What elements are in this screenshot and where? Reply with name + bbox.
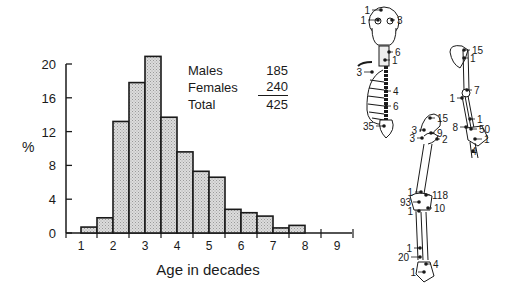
legend-label-total: Total <box>188 96 215 113</box>
histogram-bar <box>129 83 145 233</box>
lesion-count-label: 35 <box>363 121 375 132</box>
histogram-bar <box>113 121 129 233</box>
x-tick-label: 1 <box>78 239 85 253</box>
histogram-bar <box>289 225 305 233</box>
x-tick-label: 4 <box>174 239 181 253</box>
histogram-bar <box>97 218 113 233</box>
x-tick-label: 2 <box>110 239 117 253</box>
x-tick-label: 9 <box>334 239 341 253</box>
y-axis: 048121620 <box>42 57 72 241</box>
lesion-count-label: 1 <box>410 267 416 278</box>
skeleton-axial-figure <box>358 7 399 138</box>
x-tick-label: 8 <box>302 239 309 253</box>
lesion-count-label: 118 <box>432 190 448 201</box>
lesion-count-label: 1 <box>484 134 490 145</box>
lesion-count-label: 4 <box>433 259 439 270</box>
legend-value-males: 185 <box>258 62 288 79</box>
histogram-bar <box>161 117 177 233</box>
legend-label-males: Males <box>188 62 223 79</box>
lesion-count-label: 1 <box>392 55 398 66</box>
y-tick-label: 12 <box>42 125 56 140</box>
lesion-count-label: 6 <box>393 101 399 112</box>
y-axis-label: % <box>22 139 34 155</box>
y-tick-label: 0 <box>49 226 56 241</box>
lesion-count-label: 4 <box>471 146 477 157</box>
skeleton-upper-limb-figure <box>450 46 488 158</box>
lesion-count-label: 10 <box>434 203 446 214</box>
histogram-bar <box>273 228 289 233</box>
legend-row-females: Females 240 <box>188 79 288 96</box>
lesion-count-label: 1 <box>470 53 476 64</box>
lesion-count-label: 1 <box>407 206 413 217</box>
histogram-bar <box>193 171 209 233</box>
lesion-count-label: 1 <box>449 93 455 104</box>
legend-row-males: Males 185 <box>188 62 288 79</box>
lesion-count-label: 3 <box>356 67 362 78</box>
histogram-bar <box>257 216 273 233</box>
lesion-count-label: 8 <box>452 122 458 133</box>
x-axis-label: Age in decades <box>156 261 259 278</box>
histogram-bar <box>241 213 257 233</box>
lesion-count-label: 7 <box>474 85 480 96</box>
y-tick-label: 4 <box>49 192 56 207</box>
lesion-count-label: 3 <box>397 15 403 26</box>
legend-value-total: 425 <box>258 96 288 113</box>
x-tick-label: 3 <box>142 239 149 253</box>
histogram-chart: 048121620 123456789 % Age in decades 113… <box>0 0 511 291</box>
x-tick-label: 7 <box>270 239 277 253</box>
legend-row-total: Total 425 <box>188 96 288 113</box>
lesion-count-label: 15 <box>437 113 449 124</box>
legend-label-females: Females <box>188 79 238 96</box>
y-tick-label: 8 <box>49 158 56 173</box>
histogram-bar <box>177 152 193 233</box>
chart-legend: Males 185 Females 240 Total 425 <box>188 62 288 113</box>
histogram-bar <box>209 177 225 233</box>
lesion-count-label: 4 <box>393 86 399 97</box>
histogram-bar <box>81 227 97 233</box>
histogram-bar <box>225 209 241 233</box>
x-tick-label: 6 <box>238 239 245 253</box>
lesion-count-label: 2 <box>442 134 448 145</box>
y-tick-label: 16 <box>42 91 56 106</box>
legend-value-females: 240 <box>258 79 288 96</box>
y-tick-label: 20 <box>42 57 56 72</box>
lesion-count-label: 20 <box>398 252 410 263</box>
histogram-bar <box>145 56 161 233</box>
x-tick-label: 5 <box>206 239 213 253</box>
lesion-count-label: 1 <box>360 15 366 26</box>
lesion-count-label: 3 <box>409 133 415 144</box>
